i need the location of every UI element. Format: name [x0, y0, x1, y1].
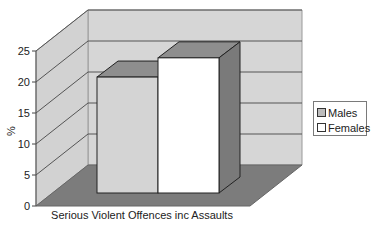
- y-axis-ticks: 0510152025: [18, 45, 36, 212]
- y-tick-label: 25: [18, 45, 30, 57]
- y-tick-label: 20: [18, 76, 30, 88]
- x-axis-label: Serious Violent Offences inc Assaults: [51, 209, 233, 221]
- y-tick-label: 5: [24, 169, 30, 181]
- legend-swatch-females: [317, 123, 326, 132]
- legend-swatch-males: [317, 108, 326, 117]
- legend-label-males: Males: [328, 107, 357, 119]
- bar-females: [158, 42, 240, 193]
- legend: Males Females: [313, 101, 367, 136]
- legend-label-females: Females: [328, 122, 370, 134]
- y-tick-label: 10: [18, 138, 30, 150]
- legend-item-females: Females: [317, 120, 366, 135]
- legend-item-males: Males: [317, 105, 366, 120]
- bars: [97, 42, 240, 193]
- y-axis-title: %: [5, 126, 17, 136]
- y-tick-label: 15: [18, 107, 30, 119]
- y-tick-label: 0: [24, 200, 30, 212]
